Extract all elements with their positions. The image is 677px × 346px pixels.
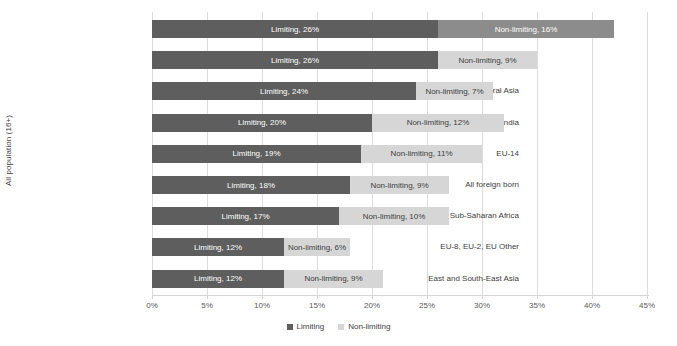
legend-swatch-icon: [338, 324, 344, 330]
x-axis-tick-label: 20%: [352, 301, 392, 310]
bar-segment-nonlimiting: Non-limiting, 10%: [339, 207, 449, 225]
bar-segment-nonlimiting: Non-limiting, 7%: [416, 82, 493, 100]
x-axis-tick-label: 0%: [132, 301, 172, 310]
x-axis-tick-label: 25%: [407, 301, 447, 310]
x-axis-tick: [152, 295, 153, 299]
bar-segment-limiting: Limiting, 19%: [152, 145, 361, 163]
bar-segment-limiting: Limiting, 26%: [152, 20, 438, 38]
x-axis-tick: [207, 295, 208, 299]
category-label: East and South-East Asia: [369, 270, 519, 288]
x-axis-tick: [592, 295, 593, 299]
x-axis-tick-label: 40%: [572, 301, 612, 310]
x-axis-tick: [262, 295, 263, 299]
category-label: EU-8, EU-2, EU Other: [369, 238, 519, 256]
bar-segment-limiting: Limiting, 18%: [152, 176, 350, 194]
legend-label: Non-limiting: [348, 322, 390, 331]
legend-label: Limiting: [297, 322, 325, 331]
legend-item[interactable]: Non-limiting: [338, 322, 390, 331]
x-axis-tick: [372, 295, 373, 299]
bar-row: Pakistan & other South AsianLimiting, 26…: [0, 51, 677, 69]
bar-row: Sub-Saharan AfricaLimiting, 17%Non-limit…: [0, 207, 677, 225]
bar-segment-nonlimiting: Non-limiting, 9%: [350, 176, 449, 194]
x-axis-tick: [317, 295, 318, 299]
bar-segment-limiting: Limiting, 12%: [152, 270, 284, 288]
bar-row: EU-14Limiting, 19%Non-limiting, 11%: [0, 145, 677, 163]
legend-item[interactable]: Limiting: [287, 322, 325, 331]
bar-segment-nonlimiting: Non-limiting, 12%: [372, 114, 504, 132]
bar-row: All foreign bornLimiting, 18%Non-limitin…: [0, 176, 677, 194]
x-axis-tick-label: 30%: [462, 301, 502, 310]
bar-segment-limiting: Limiting, 26%: [152, 51, 438, 69]
bar-row: EU-8, EU-2, EU OtherLimiting, 12%Non-lim…: [0, 238, 677, 256]
bar-row: East and South-East AsiaLimiting, 12%Non…: [0, 270, 677, 288]
bar-row: MENA & Central AsiaLimiting, 24%Non-limi…: [0, 82, 677, 100]
bar-segment-limiting: Limiting, 12%: [152, 238, 284, 256]
x-axis-tick-label: 35%: [517, 301, 557, 310]
bar-segment-nonlimiting: Non-limiting, 16%: [438, 20, 614, 38]
x-axis-tick-label: 15%: [297, 301, 337, 310]
x-axis-line: [152, 295, 649, 296]
x-axis-tick-label: 45%: [627, 301, 667, 310]
chart-legend: LimitingNon-limiting: [0, 322, 677, 331]
x-axis-tick-label: 10%: [242, 301, 282, 310]
bar-segment-nonlimiting: Non-limiting, 6%: [284, 238, 350, 256]
bar-segment-limiting: Limiting, 17%: [152, 207, 339, 225]
x-axis-tick-label: 5%: [187, 301, 227, 310]
legend-swatch-icon: [287, 324, 293, 330]
bar-segment-nonlimiting: Non-limiting, 9%: [438, 51, 537, 69]
bar-segment-limiting: Limiting, 24%: [152, 82, 416, 100]
bar-segment-limiting: Limiting, 20%: [152, 114, 372, 132]
bar-row: UKLimiting, 26%Non-limiting, 16%: [0, 20, 677, 38]
bar-segment-nonlimiting: Non-limiting, 9%: [284, 270, 383, 288]
bar-segment-nonlimiting: Non-limiting, 11%: [361, 145, 482, 163]
x-axis-tick: [482, 295, 483, 299]
x-axis-tick: [647, 295, 648, 299]
bar-row: IndiaLimiting, 20%Non-limiting, 12%: [0, 114, 677, 132]
x-axis-tick: [427, 295, 428, 299]
stacked-bar-chart: All population (16+) LimitingNon-limitin…: [0, 0, 677, 346]
x-axis-tick: [537, 295, 538, 299]
